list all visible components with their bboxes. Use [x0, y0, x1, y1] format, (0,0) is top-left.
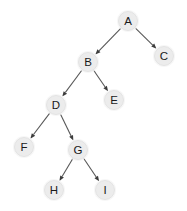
edge-line [34, 113, 50, 135]
node-circle [45, 181, 64, 200]
edge-arrowhead [94, 176, 99, 181]
node-circle [155, 47, 174, 66]
tree-canvas: ABCDEFGHI [0, 0, 187, 211]
tree-edge-a-c [135, 28, 156, 49]
tree-node-d[interactable]: D [45, 94, 67, 116]
node-circle [15, 138, 34, 157]
tree-edge-b-e [94, 70, 108, 91]
edge-line [62, 159, 73, 177]
tree-edge-a-b [95, 28, 121, 54]
node-circle [79, 53, 98, 72]
tree-node-h[interactable]: H [43, 179, 65, 201]
edge-arrowhead [69, 135, 73, 141]
tree-node-e[interactable]: E [103, 89, 125, 111]
node-circle [47, 96, 66, 115]
edge-line [99, 28, 121, 51]
tree-edge-d-g [60, 114, 73, 141]
tree-edge-b-d [62, 70, 82, 97]
tree-edge-d-f [30, 113, 50, 139]
edge-line [60, 114, 71, 136]
tree-edge-g-h [59, 159, 72, 181]
edge-arrowhead [103, 86, 108, 91]
tree-node-g[interactable]: G [67, 139, 89, 161]
node-circle [96, 181, 115, 200]
tree-edge-g-i [84, 158, 100, 181]
edge-line [84, 158, 97, 177]
edge-line [65, 70, 82, 92]
edge-line [135, 28, 153, 45]
node-circle [119, 12, 138, 31]
tree-node-i[interactable]: I [94, 179, 116, 201]
tree-node-a[interactable]: A [117, 10, 139, 32]
edge-arrowhead [59, 175, 63, 181]
edge-line [94, 70, 105, 87]
tree-node-c[interactable]: C [153, 45, 175, 67]
tree-node-b[interactable]: B [77, 51, 99, 73]
node-circle [105, 91, 124, 110]
node-layer: ABCDEFGHI [13, 10, 175, 201]
tree-node-f[interactable]: F [13, 136, 35, 158]
binary-tree-diagram: ABCDEFGHI [0, 0, 187, 211]
node-circle [69, 141, 88, 160]
